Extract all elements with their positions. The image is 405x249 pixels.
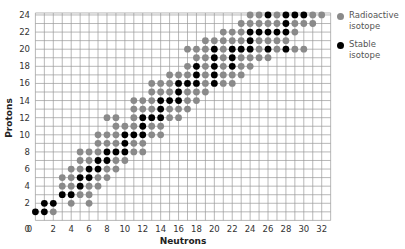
stable-isotope-dot bbox=[247, 29, 254, 36]
radioactive-isotope-dot bbox=[220, 54, 227, 61]
radioactive-isotope-dot bbox=[274, 37, 281, 44]
radioactive-isotope-dot bbox=[50, 208, 57, 215]
y-tick-label: 2 bbox=[25, 198, 30, 208]
legend-label: isotope bbox=[349, 50, 380, 61]
radioactive-isotope-dot bbox=[229, 29, 236, 36]
radioactive-isotope-dot bbox=[220, 63, 227, 70]
stable-isotope-dot bbox=[113, 149, 120, 156]
radioactive-isotope-dot bbox=[193, 46, 200, 53]
x-axis-title: Neutrons bbox=[160, 236, 207, 246]
stable-isotope-dot bbox=[193, 71, 200, 78]
stable-isotope-dot bbox=[166, 97, 173, 104]
radioactive-isotope-dot bbox=[130, 114, 137, 121]
radioactive-isotope-dot bbox=[175, 114, 182, 121]
radioactive-isotope-dot bbox=[77, 157, 84, 164]
radioactive-isotope-dot bbox=[113, 140, 120, 147]
radioactive-isotope-dot bbox=[211, 37, 218, 44]
radioactive-isotope-dot bbox=[104, 166, 111, 173]
radioactive-isotope-dot bbox=[220, 71, 227, 78]
stable-isotope-dot bbox=[139, 123, 146, 130]
stable-isotope-dot bbox=[211, 80, 218, 87]
radioactive-isotope-dot bbox=[104, 140, 111, 147]
radioactive-isotope-dot bbox=[238, 71, 245, 78]
radioactive-isotope-dot bbox=[68, 174, 75, 181]
stable-isotope-dot bbox=[104, 149, 111, 156]
radioactive-isotope-dot bbox=[300, 46, 307, 53]
radioactive-isotope-dot bbox=[220, 37, 227, 44]
stable-isotope-dot bbox=[41, 200, 48, 207]
radioactive-isotope-dot bbox=[193, 89, 200, 96]
radioactive-isotope-dot bbox=[157, 131, 164, 138]
x-tick-label: 10 bbox=[119, 224, 130, 234]
radioactive-isotope-dot bbox=[148, 123, 155, 130]
y-tick-label: 22 bbox=[19, 27, 30, 37]
stable-isotope-dot bbox=[139, 114, 146, 121]
radioactive-isotope-dot bbox=[184, 106, 191, 113]
radioactive-isotope-dot bbox=[95, 140, 102, 147]
stable-isotope-dot bbox=[265, 12, 272, 19]
radioactive-isotope-dot bbox=[247, 54, 254, 61]
radioactive-isotope-dot bbox=[59, 174, 66, 181]
radioactive-isotope-dot bbox=[291, 29, 298, 36]
radioactive-isotope-dot bbox=[95, 131, 102, 138]
radioactive-isotope-dot bbox=[104, 174, 111, 181]
radioactive-isotope-dot bbox=[220, 46, 227, 53]
radioactive-isotope-dot bbox=[121, 157, 128, 164]
radioactive-isotope-dot bbox=[202, 63, 209, 70]
radioactive-isotope-dot bbox=[265, 20, 272, 27]
radioactive-isotope-dot bbox=[184, 71, 191, 78]
radioactive-isotope-dot bbox=[130, 106, 137, 113]
radioactive-isotope-dot bbox=[139, 106, 146, 113]
radioactive-isotope-dot bbox=[95, 183, 102, 190]
radioactive-isotope-dot bbox=[95, 149, 102, 156]
stable-isotope-dot bbox=[130, 131, 137, 138]
stable-isotope-dot bbox=[274, 29, 281, 36]
stable-isotope-dot bbox=[238, 46, 245, 53]
radioactive-isotope-dot bbox=[148, 131, 155, 138]
stable-isotope-dot bbox=[175, 80, 182, 87]
radioactive-isotope-dot bbox=[202, 71, 209, 78]
radioactive-isotope-dot bbox=[309, 12, 316, 19]
stable-isotope-dot bbox=[211, 54, 218, 61]
radioactive-isotope-dot bbox=[166, 114, 173, 121]
x-tick-label: 14 bbox=[155, 224, 166, 234]
y-axis-ticks: 024681012141618202224 bbox=[19, 10, 30, 234]
radioactive-isotope-dot bbox=[256, 54, 263, 61]
radioactive-isotope-dot bbox=[256, 46, 263, 53]
radioactive-isotope-dot bbox=[247, 63, 254, 70]
stable-isotope-dot bbox=[157, 97, 164, 104]
x-tick-label: 26 bbox=[263, 224, 274, 234]
radioactive-isotope-dot bbox=[274, 20, 281, 27]
radioactive-isotope-dot bbox=[95, 174, 102, 181]
stable-isotope-dot bbox=[283, 46, 290, 53]
radioactive-isotope-dot bbox=[157, 89, 164, 96]
radioactive-isotope-dot bbox=[166, 71, 173, 78]
stable-isotope-dot bbox=[68, 191, 75, 198]
radioactive-isotope-dot bbox=[86, 200, 93, 207]
radioactive-isotope-dot bbox=[193, 97, 200, 104]
stable-isotope-dot bbox=[283, 12, 290, 19]
stable-isotope-dot bbox=[300, 12, 307, 19]
x-tick-label: 28 bbox=[281, 224, 292, 234]
radioactive-isotope-dot bbox=[77, 149, 84, 156]
x-tick-label: 32 bbox=[316, 224, 327, 234]
stable-isotope-dot bbox=[283, 20, 290, 27]
legend-label: Radioactive bbox=[349, 10, 399, 21]
radioactive-isotope-dot bbox=[247, 20, 254, 27]
stable-isotope-dot bbox=[283, 29, 290, 36]
radioactive-isotope-dot bbox=[202, 80, 209, 87]
radioactive-isotope-dot bbox=[130, 149, 137, 156]
y-axis-title: Protons bbox=[4, 98, 14, 137]
stable-isotope-dot bbox=[175, 97, 182, 104]
radioactive-isotope-dot bbox=[184, 63, 191, 70]
radioactive-isotope-dot bbox=[238, 63, 245, 70]
y-tick-label: 24 bbox=[19, 10, 30, 20]
stable-isotope-dot bbox=[86, 174, 93, 181]
radioactive-isotope-dot bbox=[148, 80, 155, 87]
y-tick-label: 20 bbox=[19, 44, 30, 54]
stable-isotope-dot bbox=[229, 63, 236, 70]
radioactive-isotope-dot bbox=[291, 20, 298, 27]
radioactive-isotope-dot bbox=[274, 46, 281, 53]
stable-isotope-dot bbox=[104, 157, 111, 164]
stable-isotope-dot bbox=[77, 183, 84, 190]
